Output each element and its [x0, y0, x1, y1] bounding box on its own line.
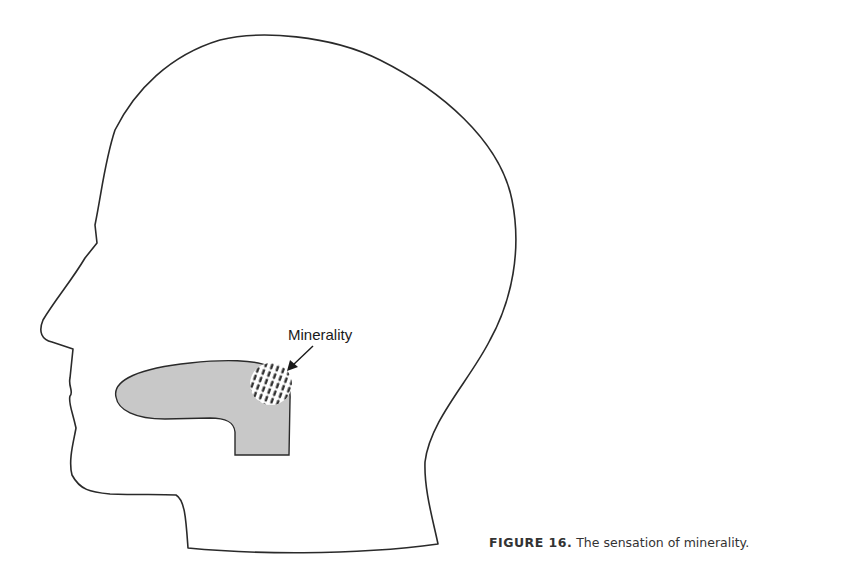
caption-number: FIGURE 16.	[489, 535, 572, 550]
pointer-arrow	[292, 346, 313, 366]
head-diagram	[0, 0, 856, 587]
caption-text: The sensation of minerality.	[572, 535, 749, 550]
head-outline	[41, 35, 516, 553]
figure-caption: FIGURE 16. The sensation of minerality.	[489, 535, 749, 550]
minerality-label: Minerality	[288, 326, 352, 343]
